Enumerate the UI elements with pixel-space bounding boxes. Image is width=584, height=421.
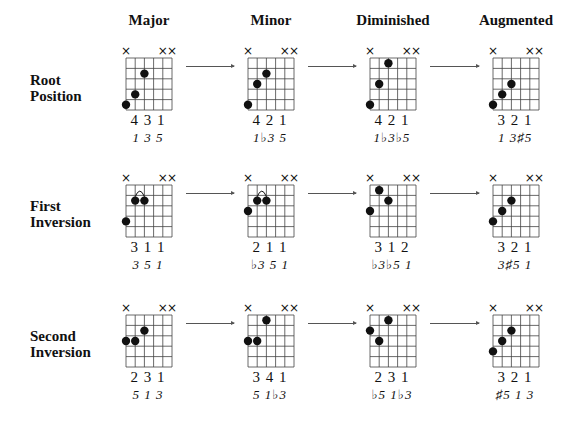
finger-numbers: 2 3 1 bbox=[362, 369, 422, 386]
interval-labels: ♭5 1♭3 bbox=[362, 387, 422, 403]
finger-dot-icon bbox=[244, 337, 252, 345]
row-label-2: FirstInversion bbox=[30, 198, 91, 230]
muted-string-icon: × bbox=[365, 171, 375, 185]
muted-string-icon: × bbox=[488, 301, 498, 315]
interval-labels: 1♭3♭5 bbox=[362, 130, 422, 146]
arrow-right-icon bbox=[430, 323, 479, 324]
finger-dot-icon bbox=[384, 196, 392, 204]
interval-labels: ♭3 5 1 bbox=[240, 257, 300, 273]
chord-diagram-diminished-1: ××× bbox=[364, 42, 422, 116]
muted-string-icon: × bbox=[243, 171, 253, 185]
interval-labels: 1 3 5 bbox=[118, 130, 178, 146]
finger-dot-icon bbox=[262, 316, 270, 324]
finger-dot-icon bbox=[375, 80, 383, 88]
finger-dot-icon bbox=[498, 337, 506, 345]
muted-string-icon: × bbox=[121, 301, 131, 315]
finger-dot-icon bbox=[489, 101, 497, 109]
interval-labels: 1♭3 5 bbox=[240, 130, 300, 146]
muted-string-icon: × bbox=[488, 44, 498, 58]
muted-string-icon: × bbox=[121, 171, 131, 185]
muted-string-icon: × bbox=[411, 301, 421, 315]
finger-numbers: 3 1 2 bbox=[362, 239, 422, 256]
interval-labels: 5 1 3 bbox=[118, 387, 178, 403]
chord-diagram-augmented-1: ××× bbox=[487, 42, 545, 116]
interval-labels: 1 3♯5 bbox=[485, 130, 545, 146]
column-header-diminished: Diminished bbox=[333, 12, 453, 29]
finger-dot-icon bbox=[122, 337, 130, 345]
finger-dot-icon bbox=[244, 101, 252, 109]
arrow-right-icon bbox=[186, 66, 234, 67]
muted-string-icon: × bbox=[243, 44, 253, 58]
muted-string-icon: × bbox=[289, 44, 299, 58]
finger-dot-icon bbox=[131, 337, 139, 345]
finger-dot-icon bbox=[262, 196, 270, 204]
chord-diagram-minor-3: ××× bbox=[242, 299, 300, 373]
finger-dot-icon bbox=[122, 217, 130, 225]
interval-labels: 5 1♭3 bbox=[240, 387, 300, 403]
finger-dot-icon bbox=[253, 80, 261, 88]
finger-dot-icon bbox=[498, 207, 506, 215]
finger-dot-icon bbox=[507, 80, 515, 88]
finger-dot-icon bbox=[140, 69, 148, 77]
finger-dot-icon bbox=[507, 326, 515, 334]
chord-diagram-major-2: ××× bbox=[120, 169, 178, 243]
interval-labels: 3 5 1 bbox=[118, 257, 178, 273]
finger-numbers: 3 4 1 bbox=[240, 369, 300, 386]
row-label-1: RootPosition bbox=[30, 72, 82, 104]
finger-dot-icon bbox=[253, 337, 261, 345]
finger-dot-icon bbox=[375, 186, 383, 194]
finger-numbers: 3 1 1 bbox=[118, 239, 178, 256]
muted-string-icon: × bbox=[534, 301, 544, 315]
finger-numbers: 4 2 1 bbox=[362, 112, 422, 129]
muted-string-icon: × bbox=[534, 171, 544, 185]
muted-string-icon: × bbox=[167, 301, 177, 315]
finger-numbers: 2 1 1 bbox=[240, 239, 300, 256]
finger-numbers: 2 3 1 bbox=[118, 369, 178, 386]
chord-diagram-major-3: ××× bbox=[120, 299, 178, 373]
finger-dot-icon bbox=[366, 207, 374, 215]
finger-dot-icon bbox=[140, 196, 148, 204]
finger-dot-icon bbox=[262, 69, 270, 77]
chord-diagram-minor-2: ××× bbox=[242, 169, 300, 243]
chord-diagram-major-1: ××× bbox=[120, 42, 178, 116]
row-label-3: SecondInversion bbox=[30, 328, 91, 360]
muted-string-icon: × bbox=[365, 44, 375, 58]
finger-dot-icon bbox=[507, 196, 515, 204]
finger-dot-icon bbox=[489, 217, 497, 225]
muted-string-icon: × bbox=[121, 44, 131, 58]
chord-diagram-diminished-2: ××× bbox=[364, 169, 422, 243]
arrow-right-icon bbox=[186, 323, 234, 324]
interval-labels: ♯5 1 3 bbox=[485, 387, 545, 403]
muted-string-icon: × bbox=[488, 171, 498, 185]
interval-labels: 3♯5 1 bbox=[485, 257, 545, 273]
arrow-right-icon bbox=[430, 66, 479, 67]
finger-dot-icon bbox=[131, 90, 139, 98]
column-header-augmented: Augmented bbox=[456, 12, 576, 29]
muted-string-icon: × bbox=[289, 171, 299, 185]
finger-numbers: 4 3 1 bbox=[118, 112, 178, 129]
column-header-minor: Minor bbox=[211, 12, 331, 29]
finger-dot-icon bbox=[384, 59, 392, 67]
finger-dot-icon bbox=[489, 347, 497, 355]
chord-diagram-minor-1: ××× bbox=[242, 42, 300, 116]
finger-dot-icon bbox=[244, 207, 252, 215]
finger-numbers: 3 2 1 bbox=[485, 369, 545, 386]
finger-dot-icon bbox=[122, 101, 130, 109]
muted-string-icon: × bbox=[365, 301, 375, 315]
arrow-right-icon bbox=[430, 193, 479, 194]
chord-diagram-diminished-3: ××× bbox=[364, 299, 422, 373]
finger-numbers: 3 2 1 bbox=[485, 112, 545, 129]
muted-string-icon: × bbox=[534, 44, 544, 58]
finger-dot-icon bbox=[384, 316, 392, 324]
finger-dot-icon bbox=[131, 196, 139, 204]
finger-dot-icon bbox=[498, 90, 506, 98]
arrow-right-icon bbox=[308, 193, 356, 194]
finger-dot-icon bbox=[366, 326, 374, 334]
muted-string-icon: × bbox=[411, 44, 421, 58]
muted-string-icon: × bbox=[411, 171, 421, 185]
muted-string-icon: × bbox=[167, 44, 177, 58]
muted-string-icon: × bbox=[289, 301, 299, 315]
finger-dot-icon bbox=[140, 326, 148, 334]
chord-diagram-augmented-2: ××× bbox=[487, 169, 545, 243]
arrow-right-icon bbox=[186, 193, 234, 194]
